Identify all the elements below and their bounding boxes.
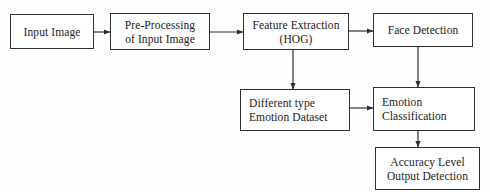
node-input-image: Input Image [10,14,94,49]
node-label-line: Emotion [382,95,422,109]
node-face-detection: Face Detection [373,13,473,47]
node-label-line: Emotion Dataset [249,110,327,124]
node-accuracy-output: Accuracy LevelOutput Detection [375,147,480,190]
node-label-line: Classification [382,109,447,123]
node-feature-extraction: Feature Extraction(HOG) [243,13,349,50]
node-label-line: Face Detection [388,23,459,37]
flowchart-canvas: Input ImagePre-Processingof Input ImageF… [0,0,490,192]
node-label-line: (HOG) [279,32,312,46]
node-label-line: Accuracy Level [390,155,465,169]
node-label-line: Output Detection [387,169,468,183]
node-label-line: Feature Extraction [252,18,339,32]
node-label-line: of Input Image [125,32,195,46]
node-label-line: Pre-Processing [125,18,195,32]
node-label-line: Different type [249,96,315,110]
node-label-line: Input Image [24,25,81,39]
node-emotion-classification: EmotionClassification [373,87,475,131]
node-pre-processing: Pre-Processingof Input Image [110,13,210,50]
node-emotion-dataset: Different typeEmotion Dataset [240,89,350,131]
